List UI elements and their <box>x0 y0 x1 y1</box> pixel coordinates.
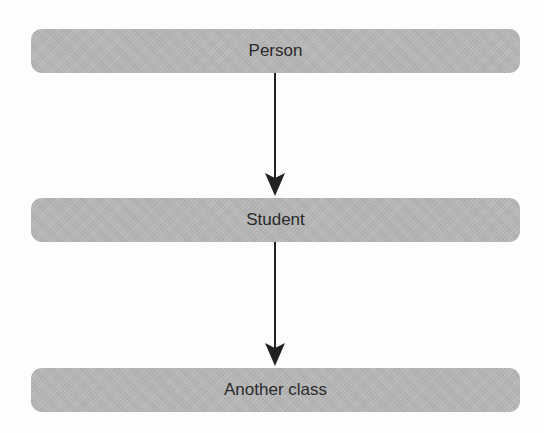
arrow-person-to-student <box>265 73 285 196</box>
arrows-layer <box>0 0 544 433</box>
arrow-student-to-another-class <box>265 242 285 366</box>
